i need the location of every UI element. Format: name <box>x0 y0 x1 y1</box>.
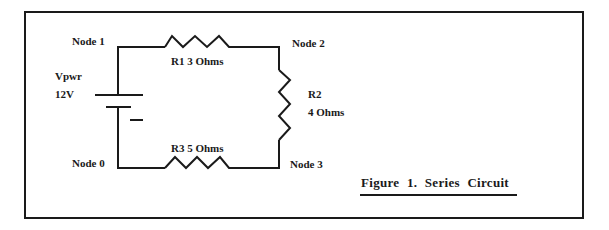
figure-caption: Figure 1. Series Circuit <box>361 176 509 189</box>
circuit-figure: Node 1 Node 2 Node 3 Node 0 Vpwr 12V R1 … <box>0 0 609 230</box>
r2-value-label: 4 Ohms <box>308 107 344 118</box>
caption-underline <box>360 194 517 196</box>
resistor-r3-symbol <box>165 157 235 168</box>
wire-r2-node3 <box>235 140 279 168</box>
source-name-label: Vpwr <box>55 71 82 82</box>
r3-label: R3 5 Ohms <box>171 143 224 154</box>
wire-r1-node2 <box>235 47 279 70</box>
source-value-label: 12V <box>55 89 74 100</box>
wire-r3-node0 <box>118 107 165 168</box>
node-2-label: Node 2 <box>292 38 325 49</box>
node-0-label: Node 0 <box>72 158 105 169</box>
node-1-label: Node 1 <box>72 36 105 47</box>
right-branch <box>235 70 290 168</box>
wire-node1-r1 <box>118 47 165 95</box>
node-3-label: Node 3 <box>290 159 323 170</box>
resistor-r1-symbol <box>165 36 235 47</box>
resistor-r2-symbol <box>279 70 290 140</box>
r2-name-label: R2 <box>308 89 321 100</box>
bottom-branch <box>118 107 235 168</box>
r1-label: R1 3 Ohms <box>171 56 224 67</box>
